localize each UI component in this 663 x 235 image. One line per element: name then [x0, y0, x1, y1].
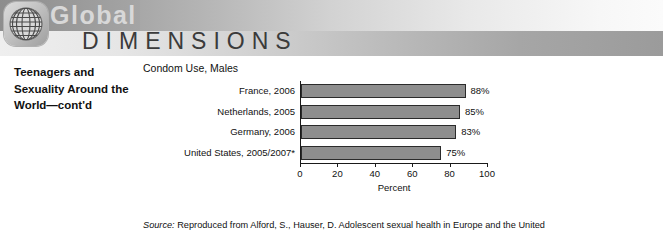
source-text: Reproduced from Alford, S., Hauser, D. A…	[175, 220, 545, 230]
bar-fill	[301, 84, 466, 98]
bar-category-label: Netherlands, 2005	[143, 102, 295, 123]
tick-mark	[375, 163, 376, 167]
tick-mark	[300, 163, 301, 167]
brand-title-dimensions: DIMENSIONS	[82, 28, 298, 54]
source-label: Source:	[143, 220, 175, 230]
bar-track: 85%	[301, 102, 488, 123]
bar-value-label: 88%	[471, 84, 490, 98]
bar-track: 75%	[301, 143, 488, 164]
globe-grid-icon	[4, 2, 48, 46]
global-dimensions-banner: Global DIMENSIONS	[0, 0, 663, 56]
chart-container: Condom Use, Males France, 200688%Netherl…	[143, 62, 563, 191]
tick-label: 80	[444, 168, 455, 179]
source-note: Source: Reproduced from Alford, S., Haus…	[143, 219, 653, 231]
bar-row: Germany, 200683%	[143, 122, 488, 143]
bar-row: Netherlands, 200585%	[143, 102, 488, 123]
bar-row: United States, 2005/2007*75%	[143, 143, 488, 164]
bar-category-label: France, 2006	[143, 81, 295, 102]
tick-label: 40	[370, 168, 381, 179]
bar-value-label: 85%	[465, 105, 484, 119]
tick-mark	[337, 163, 338, 167]
tick-mark	[487, 163, 488, 167]
tick-mark	[412, 163, 413, 167]
bar-fill	[301, 105, 460, 119]
tick-mark	[450, 163, 451, 167]
bar-value-label: 75%	[446, 146, 465, 160]
bar-row: France, 200688%	[143, 81, 488, 102]
x-axis-ticks: 020406080100	[300, 163, 488, 183]
bar-fill	[301, 146, 441, 160]
chart-plot-area: France, 200688%Netherlands, 200585%Germa…	[143, 81, 563, 191]
chart-title: Condom Use, Males	[143, 62, 563, 74]
tick-label: 100	[479, 168, 495, 179]
bar-fill	[301, 125, 456, 139]
bar-track: 88%	[301, 81, 488, 102]
bar-series: France, 200688%Netherlands, 200585%Germa…	[143, 81, 488, 163]
bar-track: 83%	[301, 122, 488, 143]
tick-label: 60	[407, 168, 418, 179]
brand-title-global: Global	[50, 1, 137, 29]
bar-value-label: 83%	[461, 125, 480, 139]
feature-heading: Teenagers and Sexuality Around the World…	[14, 64, 134, 114]
tick-label: 20	[332, 168, 343, 179]
bar-category-label: Germany, 2006	[143, 122, 295, 143]
tick-label: 0	[297, 168, 302, 179]
bar-category-label: United States, 2005/2007*	[143, 143, 295, 164]
x-axis-label: Percent	[300, 182, 488, 193]
